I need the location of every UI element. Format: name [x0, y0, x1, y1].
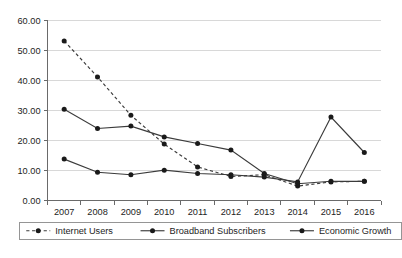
- legend-label: Broadband Subscribers: [170, 226, 266, 236]
- data-point: [128, 124, 133, 129]
- data-point: [228, 172, 233, 177]
- chart-canvas: 0.0010.0020.0030.0040.0050.0060.00 20072…: [0, 0, 402, 258]
- x-tick-label: 2007: [54, 207, 74, 217]
- x-tick-label: 2015: [321, 207, 341, 217]
- legend-label: Economic Growth: [319, 226, 392, 236]
- x-tick-label: 2012: [221, 207, 241, 217]
- data-point: [95, 74, 100, 79]
- data-point: [295, 179, 300, 184]
- legend-sample-marker: [36, 228, 41, 233]
- data-point: [62, 157, 67, 162]
- y-tick-label: 50.00: [18, 46, 41, 56]
- y-tick-label: 30.00: [18, 106, 41, 116]
- y-tick-label: 20.00: [18, 136, 41, 146]
- x-tick-label: 2013: [254, 207, 274, 217]
- y-tick-label: 40.00: [18, 76, 41, 86]
- data-point: [62, 107, 67, 112]
- data-point: [262, 175, 267, 180]
- data-point: [95, 126, 100, 131]
- x-tick-label: 2016: [354, 207, 374, 217]
- chart-legend: Internet UsersBroadband SubscribersEcono…: [19, 223, 401, 240]
- data-point: [328, 179, 333, 184]
- data-point: [328, 115, 333, 120]
- x-tick-label: 2011: [188, 207, 208, 217]
- data-point: [162, 134, 167, 139]
- x-tick-label: 2014: [287, 207, 307, 217]
- data-point: [195, 164, 200, 169]
- data-point: [128, 113, 133, 118]
- data-point: [162, 142, 167, 147]
- data-point: [362, 150, 367, 155]
- data-point: [95, 170, 100, 175]
- x-tick-label: 2008: [87, 207, 107, 217]
- data-point: [195, 171, 200, 176]
- data-point: [128, 172, 133, 177]
- data-point: [162, 168, 167, 173]
- data-point: [362, 179, 367, 184]
- data-point: [195, 141, 200, 146]
- data-point: [62, 38, 67, 43]
- data-point: [228, 148, 233, 153]
- legend-sample-marker: [299, 228, 304, 233]
- x-tick-label: 2010: [154, 207, 174, 217]
- y-tick-label: 10.00: [18, 166, 41, 176]
- y-tick-label: 0.00: [23, 196, 41, 206]
- legend-sample-marker: [150, 228, 155, 233]
- x-tick-label: 2009: [121, 207, 141, 217]
- legend-label: Internet Users: [55, 226, 113, 236]
- y-tick-label: 60.00: [18, 16, 41, 26]
- line-chart: 0.0010.0020.0030.0040.0050.0060.00 20072…: [0, 0, 402, 258]
